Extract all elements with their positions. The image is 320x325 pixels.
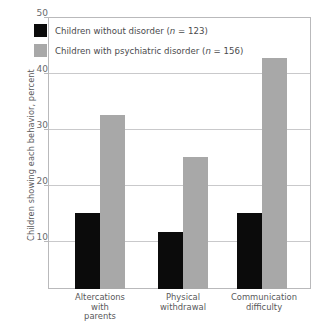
x-axis-labels: Altercations with parents Physical withd… xyxy=(48,293,311,325)
legend-label-with-disorder: Children with psychiatric disorder (n = … xyxy=(55,46,243,56)
y-tick-label-10: 10 xyxy=(6,232,48,242)
bar-without-disorder-altercations xyxy=(75,213,100,289)
legend-swatch-icon-black xyxy=(34,24,47,37)
bar-with-disorder-withdrawal xyxy=(183,157,208,289)
y-tick-label-40: 40 xyxy=(6,64,48,74)
x-label-communication: Communication difficulty xyxy=(212,293,316,312)
y-tick-label-20: 20 xyxy=(6,176,48,186)
legend-swatch-icon-gray xyxy=(34,44,47,57)
legend-item-with-disorder: Children with psychiatric disorder (n = … xyxy=(34,42,243,59)
bar-without-disorder-communication xyxy=(237,213,262,289)
bar-with-disorder-communication xyxy=(262,58,287,289)
legend-label-without-disorder: Children without disorder (n = 123) xyxy=(55,26,208,36)
bar-without-disorder-withdrawal xyxy=(158,232,183,289)
y-tick-label-50: 50 xyxy=(6,8,48,18)
y-tick-label-30: 30 xyxy=(6,120,48,130)
bar-chart: Children showing each behavior, percent … xyxy=(0,0,320,325)
legend-item-without-disorder: Children without disorder (n = 123) xyxy=(34,22,243,39)
legend: Children without disorder (n = 123) Chil… xyxy=(34,22,243,62)
bar-with-disorder-altercations xyxy=(100,115,125,289)
